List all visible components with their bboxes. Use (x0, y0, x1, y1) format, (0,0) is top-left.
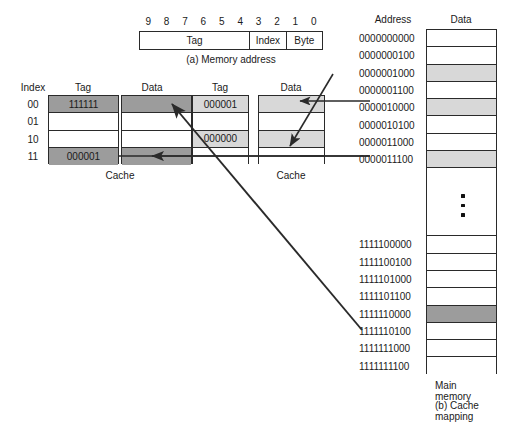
memory-address-1111111100: 1111111100 (359, 361, 409, 372)
cache-left-data-row-3 (122, 148, 191, 165)
part-a-caption: (a) Memory address (186, 55, 275, 65)
memory-address-0000011100: 0000011100 (359, 154, 413, 165)
bit-number-6: 6 (201, 16, 207, 27)
memory-row-0000001100 (427, 82, 496, 99)
memory-address-1111101100: 1111101100 (359, 291, 411, 302)
memory-row-1111101000 (427, 271, 496, 288)
bit-number-4: 4 (237, 16, 243, 27)
cache-right-data-header: Data (280, 82, 301, 93)
memory-address-0000010000: 0000010000 (359, 102, 415, 113)
cache-left-tag-row-0: 111111 (49, 96, 118, 113)
memory-address-1111110000: 1111110000 (359, 309, 411, 320)
memory-row-1111100100 (427, 254, 496, 271)
cache-left-index-11: 11 (21, 151, 45, 162)
bit-number-7: 7 (182, 16, 188, 27)
memory-row-0000011000 (427, 134, 496, 151)
cache-left-tag-table: 111111000001 (48, 95, 119, 164)
memory-address-1111100000: 1111100000 (359, 239, 412, 250)
cache-left-data-table (121, 95, 192, 164)
memory-address-1111101000: 1111101000 (359, 274, 412, 285)
cache-right-data-row-2 (259, 131, 324, 148)
cache-right-label: Cache (277, 170, 306, 181)
memory-row-1111110100 (427, 323, 496, 340)
memory-address-0000001100: 0000001100 (359, 85, 414, 96)
cache-right-tag-row-3 (193, 148, 248, 165)
address-field-index: Index (249, 32, 285, 49)
cache-left-label: Cache (106, 170, 135, 181)
memory-row-0000011100 (427, 151, 496, 168)
memory-address-0000011000: 0000011000 (359, 137, 414, 148)
memory-address-bar: TagIndexByte (139, 31, 323, 50)
cache-left-data-row-1 (122, 113, 191, 130)
memory-row-1111111100 (427, 357, 496, 374)
memory-address-0000000000: 0000000000 (359, 33, 415, 44)
bit-number-8: 8 (164, 16, 170, 27)
bit-number-3: 3 (256, 16, 262, 27)
vertical-ellipsis-icon (461, 194, 465, 223)
memory-address-1111110100: 1111110100 (359, 326, 411, 337)
bit-number-0: 0 (311, 16, 317, 27)
cache-left-data-row-2 (122, 131, 191, 148)
memory-data-header: Data (450, 14, 471, 25)
address-field-byte: Byte (286, 32, 322, 49)
memory-row-1111111000 (427, 340, 496, 357)
main-memory-label: Main memory (435, 380, 487, 402)
cache-right-tag-row-1 (193, 113, 248, 130)
cache-right-data-table (258, 95, 325, 164)
bit-number-2: 2 (274, 16, 280, 27)
memory-row-0000000100 (427, 47, 496, 64)
cache-left-tag-row-3: 000001 (49, 148, 118, 165)
memory-row-1111100000 (427, 236, 496, 253)
cache-right-tag-row-0: 000001 (193, 96, 248, 113)
cache-left-tag-header: Tag (75, 82, 91, 93)
bit-number-5: 5 (219, 16, 225, 27)
cache-right-tag-row-2: 000000 (193, 131, 248, 148)
memory-address-1111100100: 1111100100 (359, 257, 412, 268)
cache-mapping-figure: 9876543210 TagIndexByte (a) Memory addre… (0, 0, 513, 444)
cache-right-data-row-3 (259, 148, 324, 165)
cache-left-index-header: Index (21, 82, 45, 93)
bit-number-9: 9 (145, 16, 151, 27)
cache-left-index-10: 10 (21, 134, 45, 145)
cache-right-tag-header: Tag (212, 82, 228, 93)
cache-right-tag-table: 000001000000 (192, 95, 249, 164)
address-field-tag: Tag (140, 32, 249, 49)
memory-row-0000000000 (427, 30, 496, 47)
cache-left-index-01: 01 (21, 116, 45, 127)
memory-address-1111111000: 1111111000 (359, 343, 410, 354)
memory-address-0000000100: 0000000100 (359, 50, 415, 61)
cache-left-data-row-0 (122, 96, 191, 113)
cache-right-data-row-0 (259, 96, 324, 113)
memory-row-0000010000 (427, 99, 496, 116)
bit-number-1: 1 (293, 16, 299, 27)
cache-left-data-header: Data (141, 82, 162, 93)
memory-row-1111101100 (427, 288, 496, 305)
memory-address-0000001000: 0000001000 (359, 68, 415, 79)
cache-right-data-row-1 (259, 113, 324, 130)
memory-address-0000010100: 0000010100 (359, 120, 415, 131)
memory-row-0000001000 (427, 65, 496, 82)
cache-left-index-00: 00 (21, 99, 45, 110)
memory-row-1111110000 (427, 306, 496, 323)
part-b-caption: (b) Cache mapping (435, 400, 487, 422)
memory-row-0000010100 (427, 116, 496, 133)
cache-left-tag-row-1 (49, 113, 118, 130)
memory-address-header: Address (375, 14, 412, 25)
cache-left-tag-row-2 (49, 131, 118, 148)
